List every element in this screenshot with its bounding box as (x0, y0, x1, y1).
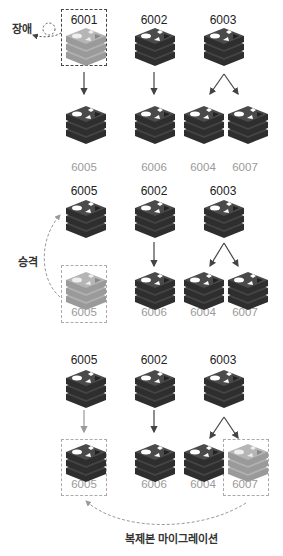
redis-node-icon (204, 28, 244, 66)
redis-node-icon (66, 28, 106, 66)
redis-node-icon (135, 28, 175, 66)
diagram-graphics (0, 0, 283, 556)
